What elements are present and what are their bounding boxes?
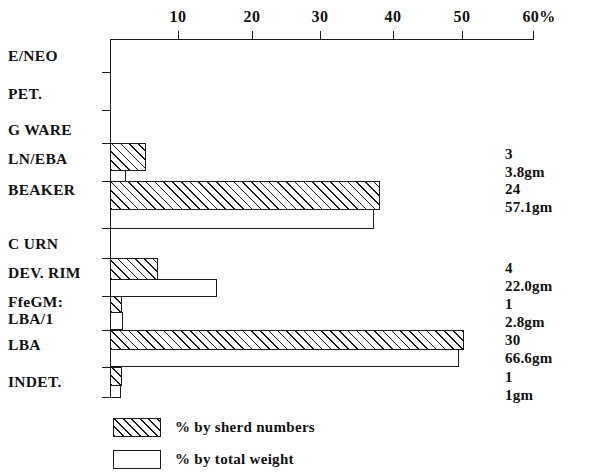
bar-ffegm-lba1-total-weight bbox=[110, 312, 123, 330]
x-tick-label-40: 40 bbox=[385, 8, 402, 26]
value-label-ffegm-lba1: 1 2.8gm bbox=[505, 296, 545, 331]
category-label-ffegm-line1: FfeGM: bbox=[8, 293, 91, 310]
bar-ln-eba-sherd-numbers bbox=[110, 143, 146, 171]
category-label-c-urn: C URN bbox=[8, 235, 91, 252]
value-dev-rim-count: 4 bbox=[505, 260, 552, 278]
x-tick-mark-10 bbox=[178, 31, 179, 40]
x-tick-label-10: 10 bbox=[170, 8, 187, 26]
x-tick-label-60: 60% bbox=[522, 8, 555, 26]
legend-entry-sherd-numbers: % by sherd numbers bbox=[113, 418, 315, 437]
x-tick-mark-20 bbox=[252, 31, 253, 40]
category-label-pet: PET. bbox=[8, 85, 91, 102]
bar-beaker-sherd-numbers bbox=[110, 181, 380, 210]
category-label-g-ware: G WARE bbox=[8, 121, 91, 138]
x-axis-line bbox=[110, 39, 534, 40]
legend-label-total-weight: % by total weight bbox=[175, 451, 294, 468]
bar-dev-rim-sherd-numbers bbox=[110, 258, 158, 280]
value-lba-count: 30 bbox=[505, 332, 552, 350]
y-tick-mark-pet bbox=[102, 72, 111, 73]
legend-swatch-open-icon bbox=[113, 450, 161, 469]
value-dev-rim-weight: 22.0gm bbox=[505, 278, 552, 296]
bar-dev-rim-total-weight bbox=[110, 279, 217, 297]
value-ffegm-count: 1 bbox=[505, 296, 545, 314]
value-beaker-weight: 57.1gm bbox=[505, 199, 552, 217]
value-indet-weight: 1gm bbox=[505, 387, 533, 405]
value-label-lba: 30 66.6gm bbox=[505, 332, 552, 367]
x-tick-mark-40 bbox=[393, 31, 394, 40]
category-label-indet: INDET. bbox=[8, 373, 91, 390]
x-tick-label-20: 20 bbox=[244, 8, 261, 26]
value-lba-weight: 66.6gm bbox=[505, 350, 552, 368]
legend-label-sherd-numbers: % by sherd numbers bbox=[175, 419, 315, 436]
bar-indet-sherd-numbers bbox=[110, 367, 122, 386]
x-tick-mark-60 bbox=[533, 31, 534, 40]
value-ffegm-weight: 2.8gm bbox=[505, 314, 545, 332]
value-label-indet: 1 1gm bbox=[505, 369, 533, 404]
category-label-ffegm-lba1: FfeGM: LBA/1 bbox=[8, 293, 91, 328]
x-tick-mark-50 bbox=[462, 31, 463, 40]
legend-entry-total-weight: % by total weight bbox=[113, 450, 294, 469]
value-label-dev-rim: 4 22.0gm bbox=[505, 260, 552, 295]
legend-swatch-hatched-icon bbox=[113, 418, 161, 437]
bar-lba-sherd-numbers bbox=[110, 330, 464, 350]
category-label-lba: LBA bbox=[8, 336, 91, 353]
y-tick-mark-gware bbox=[102, 110, 111, 111]
x-tick-label-30: 30 bbox=[312, 8, 329, 26]
category-label-beaker: BEAKER bbox=[8, 181, 91, 198]
value-indet-count: 1 bbox=[505, 369, 533, 387]
x-tick-label-50: 50 bbox=[454, 8, 471, 26]
bar-beaker-total-weight bbox=[110, 209, 374, 229]
value-label-ln-eba: 3 3.8gm bbox=[505, 146, 545, 181]
value-beaker-count: 24 bbox=[505, 181, 552, 199]
bar-lba-total-weight bbox=[110, 349, 459, 367]
category-label-ln-eba: LN/EBA bbox=[8, 150, 91, 167]
pottery-percentage-bar-chart: 10 20 30 40 50 60% E/NEO PET. G WARE LN/… bbox=[0, 0, 595, 475]
category-label-ffegm-line2: LBA/1 bbox=[8, 310, 91, 327]
bar-indet-total-weight bbox=[110, 385, 121, 398]
value-ln-eba-count: 3 bbox=[505, 146, 545, 164]
bar-ffegm-lba1-sherd-numbers bbox=[110, 296, 122, 313]
category-label-dev-rim: DEV. RIM bbox=[8, 264, 91, 281]
value-ln-eba-weight: 3.8gm bbox=[505, 164, 545, 182]
category-label-e-neo: E/NEO bbox=[8, 47, 91, 64]
x-tick-mark-30 bbox=[320, 31, 321, 40]
value-label-beaker: 24 57.1gm bbox=[505, 181, 552, 216]
